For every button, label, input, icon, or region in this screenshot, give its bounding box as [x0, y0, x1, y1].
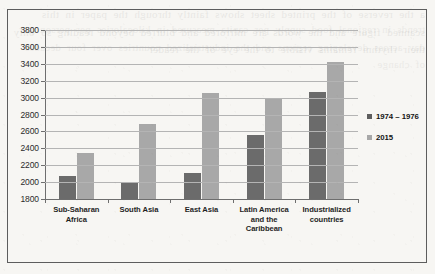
plot-area	[45, 30, 358, 199]
y-axis-tick-label: 3200	[20, 76, 39, 86]
gridline	[45, 182, 358, 183]
bar	[184, 173, 201, 199]
gridline	[45, 115, 358, 116]
gridline	[45, 165, 358, 166]
y-axis-tick-label: 2600	[20, 126, 39, 136]
x-axis-line	[45, 199, 358, 200]
y-axis-tick-label: 2200	[20, 160, 39, 170]
x-axis-tick	[358, 199, 359, 203]
bar	[121, 183, 138, 199]
y-axis-tick-labels: 3800360034003200300028002600240022002000…	[7, 30, 39, 199]
chart-legend: 1974 – 19762015	[367, 112, 425, 154]
y-axis-tick-label: 3600	[20, 42, 39, 52]
x-axis-tick	[295, 199, 296, 203]
legend-label: 1974 – 1976	[376, 112, 419, 121]
legend-swatch	[367, 135, 372, 140]
x-axis-category-label: Industrializedcountries	[289, 205, 364, 224]
gridline	[45, 131, 358, 132]
gridline	[45, 81, 358, 82]
y-axis-tick-label: 2400	[20, 143, 39, 153]
x-axis-category-labels: Sub-SaharanAfricaSouth AsiaEast AsiaLati…	[45, 205, 358, 251]
y-axis-tick-label: 3400	[20, 59, 39, 69]
screenshot-root: a the reverse of the printed sheet shows…	[0, 0, 435, 274]
gridline	[45, 148, 358, 149]
y-axis-tick-label: 2800	[20, 110, 39, 120]
x-axis-tick	[233, 199, 234, 203]
bar	[59, 176, 76, 199]
legend-swatch	[367, 114, 372, 119]
bar	[77, 153, 94, 199]
y-axis-tick-label: 2000	[20, 177, 39, 187]
gridline	[45, 98, 358, 99]
x-axis-category-label-line: Africa	[39, 215, 114, 225]
x-axis-tick	[170, 199, 171, 203]
bar	[139, 124, 156, 199]
x-axis-category-label-line: Industrialized	[289, 205, 364, 215]
bar	[247, 135, 264, 199]
gridline	[45, 47, 358, 48]
y-axis-tick-label: 1800	[20, 194, 39, 204]
y-axis-tick-label: 3800	[20, 25, 39, 35]
x-axis-tick	[108, 199, 109, 203]
y-axis-tick-label: 3000	[20, 93, 39, 103]
x-axis-tick	[45, 199, 46, 203]
x-axis-category-label-line: Caribbean	[227, 224, 302, 234]
x-axis-category-label-line: countries	[289, 215, 364, 225]
gridline	[45, 30, 358, 31]
legend-label: 2015	[376, 133, 393, 142]
legend-item: 2015	[367, 133, 425, 142]
gridline	[45, 64, 358, 65]
legend-item: 1974 – 1976	[367, 112, 425, 121]
bar-chart: 3800360034003200300028002600240022002000…	[7, 9, 427, 263]
